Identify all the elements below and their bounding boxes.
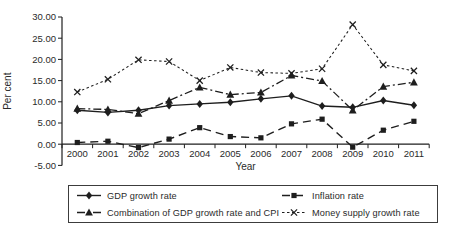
legend-marker xyxy=(291,209,297,215)
series-marker-1 xyxy=(167,137,172,142)
series-marker-1 xyxy=(136,145,141,150)
series-marker-0 xyxy=(319,102,325,110)
y-tick-label: 15.00 xyxy=(32,75,56,86)
series-marker-0 xyxy=(227,98,233,106)
x-tick-label: 2005 xyxy=(220,148,241,159)
legend-glyph-gdp-growth-rate xyxy=(76,191,102,200)
x-tick-label: 2009 xyxy=(342,148,363,159)
series-line-1 xyxy=(77,119,414,147)
figure-line-chart: 30.0025.0020.0015.0010.005.000.00-5.0020… xyxy=(0,0,458,232)
series-marker-3 xyxy=(380,62,386,68)
legend-item-gdp-growth-rate: GDP growth rate xyxy=(76,191,281,201)
legend-item-money-supply-growth-rate: Money supply growth rate xyxy=(281,208,431,218)
y-tick-label: 20.00 xyxy=(32,54,56,65)
legend-label-combination-gdp-cpi: Combination of GDP growth rate and CPI xyxy=(107,208,279,218)
series-marker-3 xyxy=(166,58,172,64)
series-marker-0 xyxy=(258,95,264,103)
legend-marker xyxy=(86,192,92,200)
series-3 xyxy=(74,22,417,96)
x-tick-label: 2008 xyxy=(312,148,333,159)
series-line-2 xyxy=(77,76,414,114)
series-0 xyxy=(74,92,417,117)
legend-glyph-combination-gdp-cpi xyxy=(76,208,102,217)
series-marker-2 xyxy=(165,97,173,104)
x-tick-label: 2003 xyxy=(159,148,180,159)
series-marker-1 xyxy=(289,121,294,126)
series-marker-0 xyxy=(411,101,417,109)
series-marker-1 xyxy=(258,135,263,140)
series-marker-3 xyxy=(197,78,203,84)
series-marker-0 xyxy=(288,92,294,100)
series-marker-3 xyxy=(350,22,356,28)
legend-label-money-supply-growth-rate: Money supply growth rate xyxy=(312,208,420,218)
legend-label-gdp-growth-rate: GDP growth rate xyxy=(107,191,177,201)
y-axis-title: Per cent xyxy=(2,72,13,109)
y-tick-label: 25.00 xyxy=(32,33,56,44)
legend-item-combination-gdp-cpi: Combination of GDP growth rate and CPI xyxy=(76,208,281,218)
x-tick-label: 2007 xyxy=(281,148,302,159)
legend-marker xyxy=(291,193,296,198)
y-tick-label: 5.00 xyxy=(38,117,57,128)
x-tick-label: 2004 xyxy=(189,148,210,159)
x-tick-label: 2011 xyxy=(404,148,424,159)
x-tick-label: 2000 xyxy=(67,148,88,159)
series-marker-3 xyxy=(74,89,80,95)
series-marker-1 xyxy=(381,128,386,133)
series-marker-1 xyxy=(411,119,416,124)
series-marker-3 xyxy=(105,76,111,82)
series-2 xyxy=(73,72,417,117)
series-marker-2 xyxy=(318,77,326,84)
series-marker-1 xyxy=(75,140,80,145)
legend-glyph-money-supply-growth-rate xyxy=(281,208,307,217)
series-marker-1 xyxy=(105,139,110,144)
legend-marker xyxy=(85,209,93,216)
x-tick-label: 2010 xyxy=(373,148,394,159)
legend-item-inflation-rate: Inflation rate xyxy=(281,191,431,201)
y-tick-label: 30.00 xyxy=(32,11,56,22)
series-marker-2 xyxy=(196,83,204,90)
series-marker-0 xyxy=(380,97,386,105)
x-axis-title: Year xyxy=(235,161,256,172)
series-line-3 xyxy=(77,25,414,92)
y-tick-label: 0.00 xyxy=(38,139,57,150)
y-tick-label: 10.00 xyxy=(32,96,56,107)
chart-svg: 30.0025.0020.0015.0010.005.000.00-5.0020… xyxy=(0,0,458,184)
legend-glyph-inflation-rate xyxy=(281,191,307,200)
series-marker-1 xyxy=(320,117,325,122)
series-marker-2 xyxy=(410,78,418,85)
series-marker-1 xyxy=(350,145,355,150)
legend-box: GDP growth rate Inflation rate Combinati… xyxy=(68,185,438,223)
legend-label-inflation-rate: Inflation rate xyxy=(312,191,364,201)
series-marker-1 xyxy=(228,134,233,139)
y-tick-label: -5.00 xyxy=(34,160,56,171)
series-line-0 xyxy=(77,96,414,113)
series-marker-3 xyxy=(319,66,325,72)
x-tick-label: 2001 xyxy=(97,148,118,159)
x-tick-label: 2006 xyxy=(250,148,271,159)
series-marker-3 xyxy=(258,69,264,75)
series-marker-1 xyxy=(197,125,202,130)
series-marker-0 xyxy=(197,100,203,108)
